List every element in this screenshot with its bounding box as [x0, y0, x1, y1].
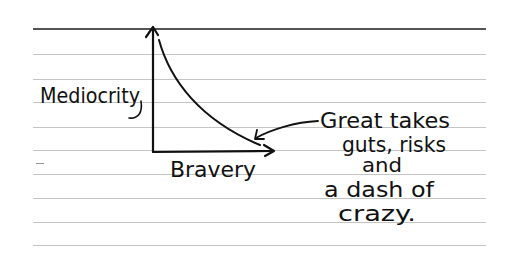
- annotation-line-5: crazy.: [338, 202, 416, 226]
- sketch-diagram: Mediocrity Bravery Great takes guts, ris…: [0, 0, 513, 269]
- y-axis-label: Mediocrity: [40, 84, 140, 108]
- y-axis: [146, 27, 158, 152]
- annotation-line-1: Great takes: [320, 109, 450, 133]
- mediocrity-curve: [159, 40, 260, 145]
- annotation-line-3: and: [362, 154, 402, 176]
- x-axis: [153, 145, 274, 156]
- pointer-arrow: [255, 121, 318, 139]
- annotation-text: Great takes guts, risks and a dash of cr…: [320, 109, 450, 226]
- annotation-line-4: a dash of: [324, 178, 435, 202]
- x-axis-label: Bravery: [170, 158, 256, 182]
